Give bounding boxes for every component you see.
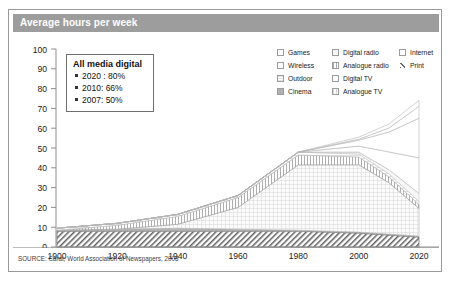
- callout-row: 2020 : 80%: [73, 70, 147, 82]
- svg-text:90: 90: [37, 64, 47, 74]
- svg-text:1960: 1960: [228, 251, 247, 261]
- legend-label: Wireless: [288, 62, 314, 70]
- swatch-icon: [332, 88, 339, 95]
- legend-item-analogue-radio[interactable]: Analogue radio: [332, 59, 389, 72]
- callout-title: All media digital: [73, 59, 147, 70]
- legend-item-wireless[interactable]: Wireless: [277, 59, 314, 72]
- legend-item-print[interactable]: Print: [399, 59, 433, 72]
- legend-item-internet[interactable]: Internet: [399, 46, 433, 59]
- svg-text:1980: 1980: [289, 251, 308, 261]
- callout-row-text: 2020 : 80%: [82, 71, 125, 81]
- annotation-callout: All media digital 2020 : 80% 2010: 66% 2…: [66, 54, 154, 112]
- svg-text:60: 60: [37, 124, 47, 134]
- legend-column: Internet Print: [399, 46, 433, 72]
- legend-item-digital-tv[interactable]: Digital TV: [332, 72, 389, 85]
- bullet-icon: [75, 74, 78, 77]
- chart-title-band: Average hours per week: [13, 14, 439, 32]
- svg-text:10: 10: [37, 223, 47, 233]
- callout-row: 2007: 50%: [73, 94, 147, 106]
- legend-label: Internet: [410, 49, 433, 57]
- svg-text:50: 50: [37, 144, 47, 154]
- legend-label: Digital radio: [343, 49, 379, 57]
- source-note: SOURCE: Carat; World Association of News…: [18, 255, 179, 262]
- legend-label: Analogue TV: [343, 88, 382, 96]
- legend-item-cinema[interactable]: Cinema: [277, 85, 314, 98]
- legend-item-games[interactable]: Games: [277, 46, 314, 59]
- svg-text:30: 30: [37, 183, 47, 193]
- bullet-icon: [75, 86, 78, 89]
- legend-item-outdoor[interactable]: Outdoor: [277, 72, 314, 85]
- chart-figure: Average hours per week: [8, 9, 442, 272]
- callout-row-text: 2007: 50%: [82, 95, 123, 105]
- callout-row-text: 2010: 66%: [82, 83, 123, 93]
- svg-text:70: 70: [37, 104, 47, 114]
- legend-column: Digital radio Analogue radio Digital TV …: [332, 46, 389, 98]
- swatch-icon: [277, 75, 284, 82]
- bullet-icon: [75, 98, 78, 101]
- legend-label: Print: [410, 62, 424, 70]
- legend-label: Cinema: [288, 88, 311, 96]
- swatch-icon: [332, 75, 339, 82]
- legend-item-analogue-tv[interactable]: Analogue TV: [332, 85, 389, 98]
- swatch-icon: [277, 49, 284, 56]
- swatch-icon: [277, 88, 284, 95]
- legend-label: Digital TV: [343, 75, 372, 83]
- swatch-icon: [332, 62, 339, 69]
- legend-column: Games Wireless Outdoor Cinema: [277, 46, 314, 98]
- swatch-icon: [277, 62, 284, 69]
- page-title: Average hours per week: [20, 17, 137, 28]
- y-axis-ticks: 100 90 80 70 60 50 40 30 20 10: [33, 45, 56, 249]
- callout-row: 2010: 66%: [73, 82, 147, 94]
- swatch-icon: [399, 49, 406, 56]
- swatch-icon: [332, 49, 339, 56]
- legend-item-digital-radio[interactable]: Digital radio: [332, 46, 389, 59]
- svg-text:20: 20: [37, 203, 47, 213]
- legend-label: Analogue radio: [343, 62, 389, 70]
- svg-text:40: 40: [37, 163, 47, 173]
- swatch-icon: [399, 62, 406, 69]
- svg-text:2020: 2020: [409, 251, 428, 261]
- legend-label: Outdoor: [288, 75, 313, 83]
- svg-text:80: 80: [37, 84, 47, 94]
- svg-text:2000: 2000: [349, 251, 368, 261]
- svg-text:100: 100: [33, 45, 48, 55]
- legend-label: Games: [288, 49, 310, 57]
